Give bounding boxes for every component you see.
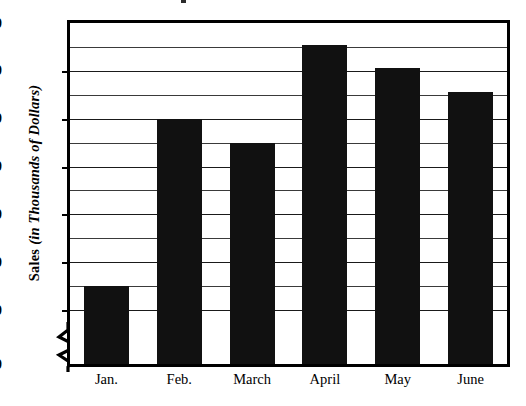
clipped-title-artifact: [181, 0, 186, 3]
gridline-major-60: [70, 214, 507, 215]
gridline-major-50: [70, 262, 507, 263]
gridline-major-40: [70, 310, 507, 311]
y-axis-title-sub: (in Thousands of Dollars): [26, 85, 43, 245]
gridline-minor-85: [70, 95, 507, 96]
bar-may: [375, 68, 420, 364]
y-tick-label-0: 0: [0, 357, 2, 372]
gridline-minor-75: [70, 143, 507, 144]
gridline-major-80: [70, 119, 507, 120]
bar-june: [448, 92, 493, 364]
bar-feb: [157, 119, 202, 364]
gridline-major-90: [70, 71, 507, 72]
gridline-minor-55: [70, 238, 507, 239]
gridline-minor-95: [70, 47, 507, 48]
bar-chart: Sales(in Thousands of Dollars) 040506070…: [0, 0, 526, 406]
y-tick-label-50: 50: [0, 255, 2, 270]
y-tick-label-90: 90: [0, 63, 2, 78]
y-tick-label-60: 60: [0, 207, 2, 222]
gridline-minor-65: [70, 190, 507, 191]
gridline-major-70: [70, 167, 507, 168]
y-tick-label-70: 70: [0, 159, 2, 174]
y-tick-label-80: 80: [0, 111, 2, 126]
x-tick-label-june: June: [426, 372, 516, 387]
bar-april: [302, 45, 347, 364]
bar-march: [230, 143, 275, 364]
y-axis-title-main: Sales: [26, 249, 43, 281]
bar-jan: [84, 286, 129, 364]
gridline-minor-45: [70, 286, 507, 287]
y-axis-title: Sales(in Thousands of Dollars): [22, 18, 46, 348]
plot-area: [67, 20, 510, 367]
y-tick-label-100: 100: [0, 16, 2, 31]
y-tick-label-40: 40: [0, 303, 2, 318]
